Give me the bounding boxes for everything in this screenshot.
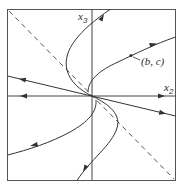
x2-axis-label: x2: [163, 81, 174, 96]
label-pointer: [133, 57, 140, 60]
arrow-left-icon: [19, 78, 26, 83]
point-label-b-c: (b, c): [141, 55, 165, 68]
arrow-left-icon: [30, 142, 38, 147]
x3-axis-label: x3: [77, 10, 88, 25]
trajectory-lower-left: [8, 100, 97, 155]
point-b-c: [129, 54, 132, 57]
arrow-down-icon: [83, 165, 89, 173]
arrow-left-icon: [20, 94, 27, 99]
arrow-right-icon: [158, 94, 165, 99]
phase-portrait-diagram: x3 x2 (b, c): [0, 0, 185, 189]
